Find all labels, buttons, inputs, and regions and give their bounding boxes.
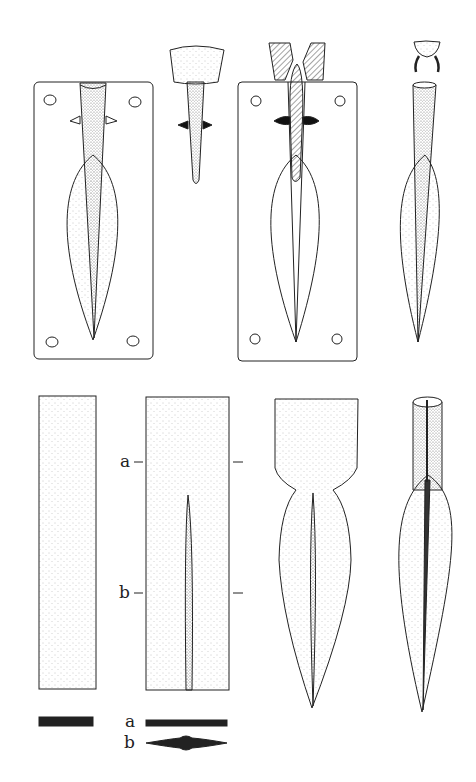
finished-spearhead — [399, 397, 452, 712]
section-label-a-bottom: a — [125, 711, 135, 731]
illustration — [0, 0, 476, 782]
mould-open-left — [34, 82, 153, 359]
core-plug — [170, 46, 224, 184]
cast-spearhead — [400, 41, 440, 342]
section-label-b: b — [119, 582, 130, 602]
section-label-b-bottom: b — [124, 732, 135, 752]
blank-marked — [134, 397, 243, 750]
mould-section — [238, 43, 357, 361]
forged-shape — [275, 399, 358, 708]
blank-bar — [39, 396, 96, 726]
section-label-a: a — [120, 451, 130, 471]
